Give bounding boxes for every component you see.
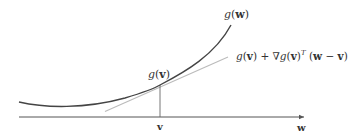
axis-label: w — [296, 122, 306, 133]
convex-curve — [19, 25, 231, 106]
tangent-point-label: g(v) — [148, 68, 170, 81]
convex-function-diagram: g(w) g(v) g(v) + ∇g(v)T (w − v) v w — [0, 0, 355, 138]
curve-label: g(w) — [224, 8, 249, 21]
tangent-line-label: g(v) + ∇g(v)T (w − v) — [236, 49, 348, 62]
axis-point-label: v — [156, 121, 164, 132]
tangent-line — [105, 57, 228, 112]
